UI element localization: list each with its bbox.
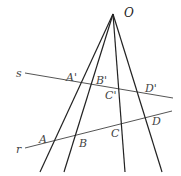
- label-b: B: [78, 137, 87, 150]
- label-d-prime: D': [144, 82, 157, 95]
- ray-oa: [40, 14, 113, 172]
- label-a: A: [38, 133, 47, 146]
- label-c: C: [111, 127, 120, 140]
- projective-diagram: O s r A' B' C' D' A B C D: [0, 0, 181, 176]
- label-s: s: [16, 67, 22, 80]
- label-r: r: [16, 143, 22, 156]
- label-o: O: [124, 6, 134, 20]
- label-a-prime: A': [65, 71, 77, 84]
- line-r: [25, 111, 172, 148]
- label-d: D: [151, 115, 161, 128]
- diagram-svg: O s r A' B' C' D' A B C D: [0, 0, 181, 176]
- label-b-prime: B': [95, 74, 107, 87]
- label-c-prime: C': [105, 89, 116, 102]
